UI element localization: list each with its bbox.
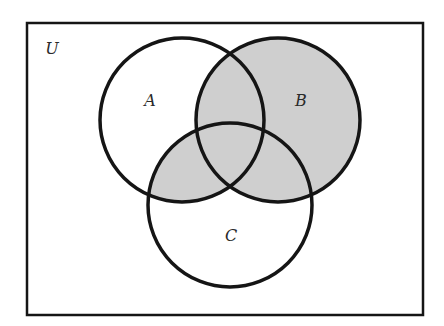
venn-diagram: U A B C — [0, 0, 444, 326]
set-b-label: B — [294, 91, 307, 110]
set-a-label: A — [142, 91, 156, 110]
set-c-label: C — [225, 226, 237, 245]
universe-label: U — [45, 39, 59, 58]
